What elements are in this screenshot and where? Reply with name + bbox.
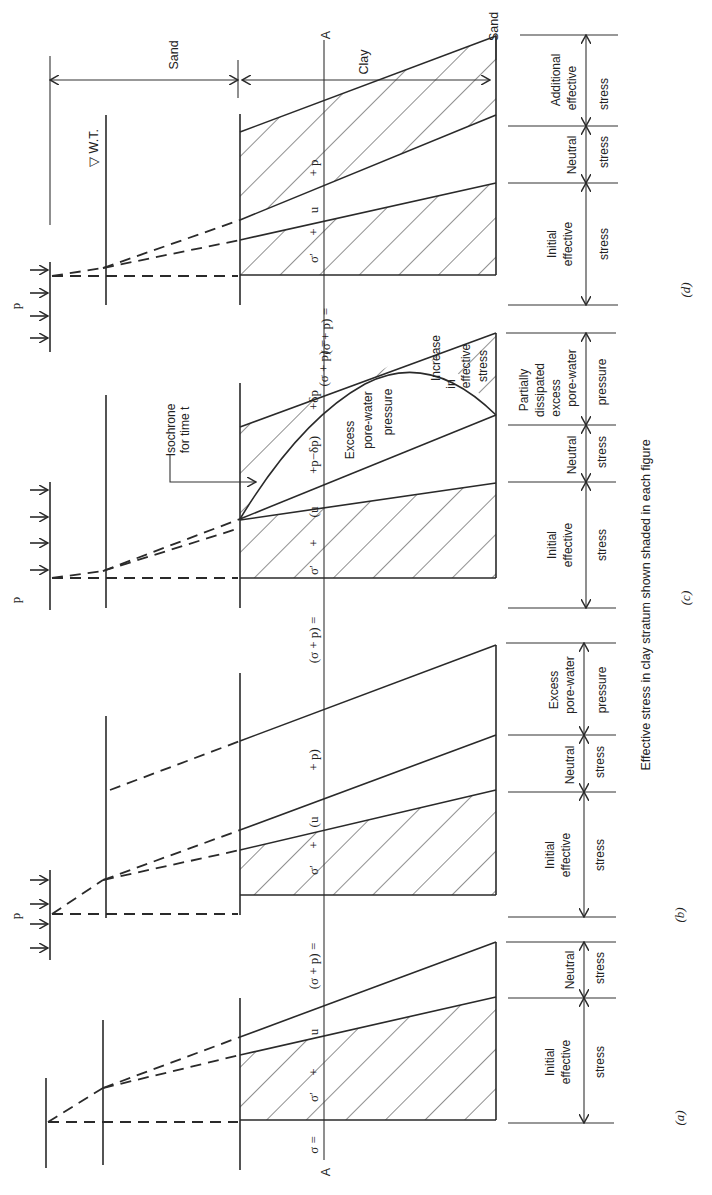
excess-pwp-label-3: pressure (381, 388, 395, 435)
load-label-b: p (8, 913, 23, 920)
annotation-c-partial-2: dissipated (533, 363, 547, 417)
panel-label-c: (c) (678, 591, 693, 605)
equation-b-plus: + (306, 841, 321, 848)
equation-b-total: (σ + p) = (306, 617, 321, 664)
increase-label-4: stress (476, 350, 490, 382)
annotations-c: Partially dissipated excess pore-water p… (506, 333, 693, 608)
annotation-b-neutral-2: stress (593, 746, 607, 778)
increase-label-2: in (444, 379, 458, 388)
annotation-c-partial-1: Partially (517, 369, 531, 412)
water-table-label: ▽ W.T. (87, 129, 101, 167)
annotation-d-additional-1: Additional (549, 54, 563, 107)
annotation-c-initial-3: stress (595, 529, 609, 561)
equation-d-plus: + (306, 228, 321, 235)
panel-d: p (σ + p) = σ′ + u + p (8, 36, 496, 355)
excess-pwp-label-1: Excess (343, 421, 357, 460)
annotation-b-initial-1: Initial (543, 841, 557, 869)
annotation-d-additional-3: stress (597, 78, 611, 110)
isochrone-label-line2: for time t (178, 406, 192, 453)
equation-b-label-a-top: (σ + p) = (306, 943, 321, 990)
annotation-d-neutral-2: stress (597, 136, 611, 168)
figure-caption: Effective stress in clay stratum shown s… (639, 439, 653, 770)
annotation-d-neutral-1: Neutral (565, 136, 579, 175)
load-label-d: p (8, 303, 23, 310)
annotation-d-initial-3: stress (597, 228, 611, 260)
stratum-label-sand-top: Sand (167, 40, 181, 69)
equation-b-sigma-prime: σ′ (306, 865, 321, 875)
annotation-b-excess-1: Excess (547, 671, 561, 710)
equation-b-u: (u (306, 816, 321, 827)
annotation-b-initial-2: effective (559, 832, 573, 877)
equation-c-plus: + (306, 539, 321, 546)
annotations-b: Excess pore-water pressure Neutral stres… (506, 643, 687, 923)
equation-c-p-minus-dp: +p−δp) (306, 436, 321, 474)
annotation-c-initial-1: Initial (545, 531, 559, 559)
annotations-d: Additional effective stress Neutral stre… (508, 35, 693, 305)
isochrone-label-line1: Isochrone (164, 403, 178, 456)
equation-a-sigma-prime: σ′ (306, 1092, 321, 1102)
annotation-c-neutral-1: Neutral (565, 436, 579, 475)
equation-d-sigma-prime: σ′ (306, 253, 321, 263)
effective-stress-diagram: Sand Clay Sand ▽ W.T. A A p (0, 0, 712, 1195)
annotation-a-initial-2: effective (559, 1039, 573, 1084)
annotation-c-partial-4: pore-water (565, 349, 579, 406)
annotation-d-initial-2: effective (561, 221, 575, 266)
section-label-a-bottom: A (319, 1167, 333, 1176)
annotation-a-neutral-2: stress (593, 952, 607, 984)
equation-a-u: u (306, 1028, 321, 1035)
load-label-c: p (8, 597, 23, 604)
equation-a-plus: + (306, 1068, 321, 1075)
annotation-a-initial-3: stress (593, 1046, 607, 1078)
equation-c-total: (σ + p) = (316, 340, 331, 387)
section-label-a-top: A (319, 30, 333, 39)
excess-pwp-label-2: pore-water (361, 391, 375, 448)
load-arrows-d (30, 270, 48, 338)
panel-label-d: (d) (678, 282, 693, 297)
load-arrows-b (30, 880, 48, 948)
load-arrows-c (30, 490, 48, 570)
annotation-c-neutral-2: stress (595, 436, 609, 468)
annotations-a: Neutral stress Initial effective stress … (506, 942, 687, 1126)
increase-label-3: effective (459, 343, 473, 388)
panel-a: σ = σ′ + u (σ + p) = (46, 942, 496, 1170)
equation-c-u: (u (306, 506, 321, 517)
panel-b: p (σ + p) = σ′ + (u + p) (8, 617, 496, 960)
annotation-d-initial-1: Initial (545, 230, 559, 258)
annotation-c-partial-3: excess (549, 379, 563, 416)
equation-b-plus-p: + p) (306, 749, 321, 770)
equation-d-plus-p: + p (306, 159, 321, 176)
equation-a-total: σ = (306, 1136, 321, 1154)
stratum-label-clay: Clay (357, 49, 371, 75)
equation-c-plus-dp: +δp (306, 390, 321, 410)
annotation-c-partial-5: pressure (595, 358, 609, 405)
annotation-b-excess-3: pressure (595, 666, 609, 713)
annotation-a-initial-1: Initial (543, 1048, 557, 1076)
annotation-b-initial-3: stress (593, 839, 607, 871)
increase-label-1: Increase (429, 335, 443, 381)
equation-d-u: u (306, 206, 321, 213)
annotation-a-neutral-1: Neutral (563, 951, 577, 990)
panel-c: p Isochrone for time t Excess pore-water… (8, 333, 496, 610)
annotation-b-excess-2: pore-water (563, 656, 577, 713)
annotation-c-initial-2: effective (561, 522, 575, 567)
panel-label-b: (b) (672, 907, 687, 922)
annotation-b-neutral-1: Neutral (563, 746, 577, 785)
equation-c-sigma-prime: σ′ (306, 565, 321, 575)
annotation-d-additional-2: effective (565, 65, 579, 110)
panel-label-a: (a) (672, 1110, 687, 1125)
